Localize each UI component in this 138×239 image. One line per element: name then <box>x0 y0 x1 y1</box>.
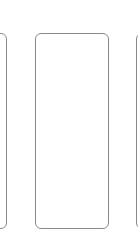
carousel-card-current[interactable] <box>35 33 109 229</box>
carousel-card-previous[interactable] <box>0 33 7 229</box>
carousel-card-next[interactable] <box>136 33 138 229</box>
